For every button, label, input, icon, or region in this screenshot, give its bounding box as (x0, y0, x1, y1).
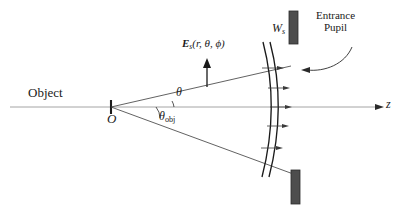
entrance-pupil-callout-curve (307, 47, 352, 70)
optical-axis-arrowhead (375, 104, 384, 110)
theta-obj-label: θobj (159, 110, 175, 125)
entrance-pupil-bar-upper (289, 11, 298, 44)
field-arguments: (r, θ, ϕ) (192, 37, 224, 49)
scattered-field-label: Es(r, θ, ϕ) (182, 38, 225, 51)
wavefront-subscript: s (282, 27, 285, 36)
origin-label: O (107, 112, 116, 126)
wavefront-arc-inner (262, 42, 271, 177)
z-axis-label: z (386, 98, 391, 111)
entrance-pupil-callout-arrowhead (301, 67, 310, 73)
entrance-pupil-line1: Entrance (316, 9, 355, 21)
field-vector-arrowhead (203, 58, 211, 68)
theta-angle-arc (172, 101, 174, 107)
wavefront-symbol: W (272, 21, 282, 35)
theta-obj-subscript: obj (165, 115, 175, 124)
entrance-pupil-line2: Pupil (324, 21, 347, 33)
object-label: Object (28, 86, 63, 100)
upper-marginal-ray (111, 66, 291, 107)
wavefront-label: Ws (272, 22, 285, 37)
entrance-pupil-bar-lower (291, 170, 300, 204)
entrance-pupil-label: EntrancePupil (316, 10, 355, 34)
optical-diagram-figure: Object O θ θobj Es(r, θ, ϕ) Ws EntranceP… (0, 0, 401, 215)
theta-label: θ (176, 86, 182, 99)
wavefront-arc-outer (269, 42, 278, 177)
lower-marginal-ray (111, 107, 296, 175)
